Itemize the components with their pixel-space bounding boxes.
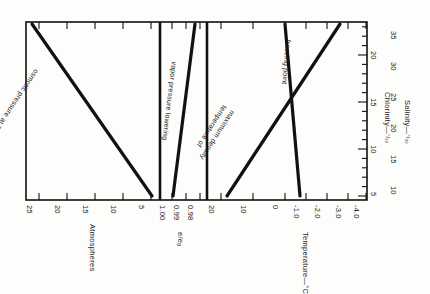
ee0-tick-0-98: 0.98 (186, 205, 195, 220)
curve-vapor-pressure-lowering (173, 24, 195, 196)
ee0-tick-0-99: 0.99 (172, 205, 181, 220)
right-axis-chlorinity-ticks (358, 27, 367, 196)
salinity-tick-20: 20 (389, 124, 398, 133)
atmospheres-tick-20: 20 (53, 205, 62, 214)
temperature-tick-20: 20 (207, 205, 216, 214)
salinity-tick-25: 25 (389, 93, 398, 102)
ee0-subscript: 0 (176, 243, 182, 246)
plot-frame (26, 22, 367, 200)
ee0-tick-1-00: 1.00 (158, 205, 167, 220)
ee0-main: e/e (176, 232, 185, 243)
chlorinity-tick-5: 5 (369, 192, 378, 196)
top-axis-ticks (39, 22, 366, 29)
temperature-tick-0: 0 (271, 205, 280, 209)
axis-title-ee0: e/e0 (176, 232, 185, 247)
curve-osmotic-pressure (32, 24, 152, 196)
temperature-tick-10: 10 (239, 205, 248, 214)
chlorinity-tick-10: 10 (369, 145, 378, 154)
chlorinity-tick-20: 20 (369, 51, 378, 60)
atmospheres-tick-25: 25 (25, 205, 34, 214)
salinity-unit: °/₀₀ (405, 134, 411, 143)
salinity-title-text: Salinity— (403, 100, 412, 134)
axis-title-temperature: Temperature—°C (301, 232, 310, 294)
atmospheres-tick-10: 10 (109, 205, 118, 214)
chlorinity-tick-15: 15 (369, 98, 378, 107)
atmospheres-tick-5: 5 (137, 205, 146, 209)
atmospheres-tick-15: 15 (81, 205, 90, 214)
salinity-tick-30: 30 (389, 62, 398, 71)
chlorinity-unit: °/₀₀ (385, 134, 391, 143)
temperature-tick-minus4: -4.0 (352, 205, 361, 219)
temperature-tick-minus1: -1.0 (292, 205, 301, 219)
bottom-axis-ticks (39, 193, 366, 200)
temperature-tick-minus3: -3.0 (334, 205, 343, 219)
axis-title-atmospheres: Atmospheres (88, 224, 97, 272)
temperature-tick-minus2: -2.0 (313, 205, 322, 219)
salinity-tick-10: 10 (389, 186, 398, 195)
salinity-tick-15: 15 (389, 155, 398, 164)
axis-title-salinity: Salinity—°/₀₀ (403, 100, 412, 144)
salinity-tick-35: 35 (389, 31, 398, 40)
